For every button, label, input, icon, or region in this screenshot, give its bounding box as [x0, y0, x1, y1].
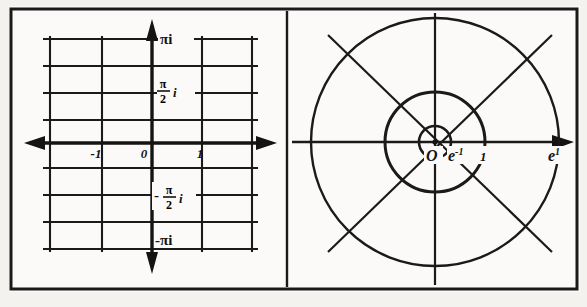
- y-tick-minus-pi-over-two-denominator: 2: [166, 198, 172, 212]
- label-e-minus-one-exponent: -1: [455, 146, 463, 157]
- y-tick-label-pi-i-text: πi: [160, 31, 172, 47]
- label-one: 1: [478, 146, 491, 164]
- y-tick-minus-pi-over-two-sign: -: [154, 187, 159, 203]
- y-tick-label-pi-over-two-i: π 2 i: [157, 76, 195, 106]
- x-tick-label-one: 1: [197, 146, 204, 161]
- origin-label: O: [424, 146, 443, 164]
- origin-label-text: O: [426, 147, 438, 164]
- origin-point: [432, 139, 437, 144]
- y-tick-label-minus-pi-i: -πi: [154, 229, 198, 248]
- label-e-minus-one-base: e: [448, 147, 455, 164]
- x-tick-label-minus-one: -1: [91, 146, 102, 161]
- x-tick-label-zero: 0: [141, 146, 148, 161]
- y-tick-pi-over-two-suffix: i: [173, 85, 177, 100]
- figure-container: -1 0 1 πi π 2 i - π 2: [0, 0, 587, 307]
- label-e-to-the-minus-one: e-1: [447, 146, 474, 164]
- y-tick-pi-over-two-numerator: π: [160, 77, 167, 91]
- label-e-one-base: e: [548, 147, 555, 164]
- y-tick-minus-pi-over-two-suffix: i: [179, 191, 183, 206]
- y-tick-label-pi-i: πi: [158, 28, 194, 47]
- label-e-one-exponent: 1: [555, 146, 560, 157]
- label-e-to-the-one: e1: [546, 146, 571, 164]
- figure-svg: -1 0 1 πi π 2 i - π 2: [0, 0, 587, 307]
- y-tick-pi-over-two-denominator: 2: [160, 92, 166, 106]
- label-one-text: 1: [480, 149, 487, 164]
- y-tick-label-minus-pi-i-text: -πi: [155, 232, 172, 248]
- y-tick-minus-pi-over-two-numerator: π: [166, 183, 173, 197]
- y-tick-label-minus-pi-over-two-i: - π 2 i: [152, 182, 196, 212]
